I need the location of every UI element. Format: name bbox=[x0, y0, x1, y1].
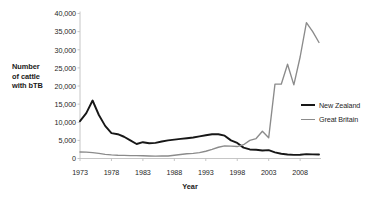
legend-label-new-zealand: New Zealand bbox=[319, 101, 360, 110]
series-line-new-zealand bbox=[80, 101, 319, 155]
legend-swatch-new-zealand-icon bbox=[301, 104, 315, 106]
legend-label-great-britain: Great Britain bbox=[319, 115, 358, 124]
chart-legend: New Zealand Great Britain bbox=[301, 98, 375, 126]
legend-item-great-britain: Great Britain bbox=[301, 112, 375, 126]
x-axis-title: Year bbox=[150, 182, 230, 191]
legend-item-new-zealand: New Zealand bbox=[301, 98, 375, 112]
chart-container: Number of cattle with bTB 40,000 35,000 … bbox=[0, 0, 376, 203]
legend-swatch-great-britain-icon bbox=[301, 119, 315, 120]
